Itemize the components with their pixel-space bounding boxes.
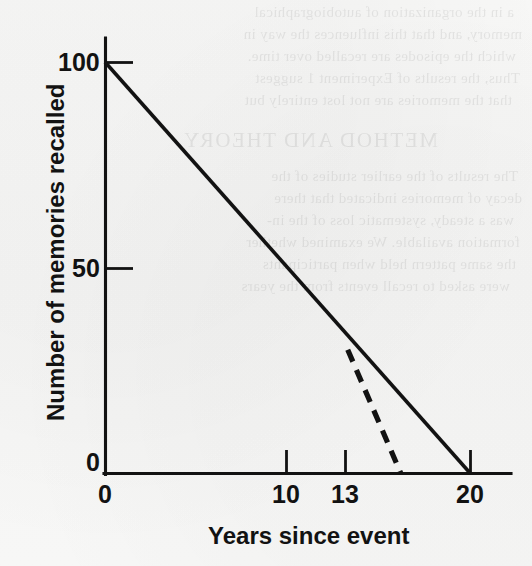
x-tick-label-13: 13 [331, 482, 359, 507]
y-tick-label-100: 100 [58, 50, 100, 75]
y-axis-title: Number of memories recalled [44, 84, 68, 421]
x-axis-title: Years since event [208, 524, 409, 548]
x-tick-label-10: 10 [272, 482, 300, 507]
x-tick-label-0: 0 [98, 482, 112, 507]
series-line-dashed [348, 350, 401, 473]
y-tick-label-0: 0 [86, 450, 100, 475]
series-line-solid [105, 62, 470, 473]
memory-decay-figure: a in the organization of autobiographica… [0, 0, 532, 566]
y-tick-label-50: 50 [72, 256, 100, 281]
plot-area [0, 0, 532, 566]
x-tick-label-20: 20 [456, 482, 484, 507]
